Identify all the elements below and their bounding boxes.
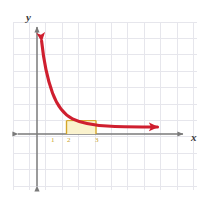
x-axis-label: x [191,132,197,143]
coordinate-plane [0,0,207,211]
grid-lines [13,22,197,190]
y-axis-label: y [26,12,31,23]
x-tick-label-3: 3 [95,137,99,144]
x-tick-label-2: 2 [67,137,71,144]
graph-figure: y x 1 2 3 [0,0,207,211]
x-tick-label-1: 1 [51,137,55,144]
exponential-curve [42,41,158,127]
